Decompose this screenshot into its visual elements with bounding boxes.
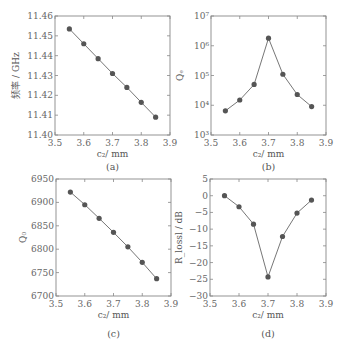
y-tick-label: 10⁷ xyxy=(194,11,209,21)
data-point xyxy=(222,193,227,198)
y-tick-label: −20 xyxy=(189,258,208,268)
data-point xyxy=(294,210,299,215)
data-point xyxy=(236,204,241,209)
data-point xyxy=(139,100,144,105)
data-point xyxy=(82,202,87,207)
y-tick-label: 10⁵ xyxy=(194,71,209,81)
data-point xyxy=(295,92,300,97)
x-tick-label: 3.7 xyxy=(106,299,121,309)
data-point xyxy=(252,82,257,87)
y-tick-label: 11.42 xyxy=(27,90,53,100)
panel-caption: (d) xyxy=(261,328,275,339)
data-point xyxy=(97,216,102,221)
panel-a: 3.53.63.73.83.911.4011.4111.4211.4311.44… xyxy=(10,11,177,172)
data-point xyxy=(154,276,159,281)
y-tick-label: 10³ xyxy=(194,130,209,140)
plot-frame xyxy=(56,179,171,296)
y-tick-label: 6900 xyxy=(31,197,54,207)
x-tick-label: 3.8 xyxy=(135,299,150,309)
y-tick-label: −25 xyxy=(189,274,208,284)
x-tick-label: 3.6 xyxy=(78,299,93,309)
x-tick-label: 3.9 xyxy=(319,138,334,148)
y-tick-label: 0 xyxy=(202,191,208,201)
x-tick-label: 3.7 xyxy=(261,138,276,148)
y-axis-label: Qₑ xyxy=(175,70,185,81)
x-tick-label: 3.9 xyxy=(164,299,179,309)
x-tick-label: 3.6 xyxy=(232,299,247,309)
y-tick-label: −30 xyxy=(189,291,208,301)
y-tick-label: 11.44 xyxy=(27,51,53,61)
x-tick-label: 3.9 xyxy=(319,299,334,309)
data-point xyxy=(237,97,242,102)
data-point xyxy=(110,71,115,76)
panel-b: 3.53.63.73.83.910³10⁴10⁵10⁶10⁷c₂/ mmQₑ(b… xyxy=(175,11,333,172)
panel-caption: (b) xyxy=(262,161,276,172)
data-point xyxy=(96,56,101,61)
data-point xyxy=(265,274,270,279)
x-tick-label: 3.8 xyxy=(290,299,305,309)
y-tick-label: 11.40 xyxy=(27,130,53,140)
data-point xyxy=(223,108,228,113)
figure-canvas: 3.53.63.73.83.911.4011.4111.4211.4311.44… xyxy=(0,0,346,355)
data-point xyxy=(266,36,271,41)
data-point xyxy=(81,41,86,46)
y-tick-label: 11.45 xyxy=(27,31,53,41)
x-axis-label: c₂/ mm xyxy=(98,310,130,320)
panel-caption: (c) xyxy=(107,328,120,339)
x-tick-label: 3.9 xyxy=(163,138,178,148)
y-tick-label: 11.46 xyxy=(27,11,53,21)
data-point xyxy=(140,260,145,265)
x-tick-label: 3.7 xyxy=(105,138,120,148)
x-axis-label: c₂/ mm xyxy=(97,149,129,159)
y-tick-label: 6750 xyxy=(31,268,54,278)
y-tick-label: 6700 xyxy=(31,291,54,301)
data-point xyxy=(68,190,73,195)
y-tick-label: 6950 xyxy=(31,174,54,184)
plot-frame xyxy=(211,16,326,135)
panel-c: 3.53.63.73.83.9670067506800685069006950c… xyxy=(18,174,178,339)
x-tick-label: 3.7 xyxy=(261,299,276,309)
y-tick-label: 6850 xyxy=(31,221,54,231)
y-axis-label: 频率 / GHz xyxy=(10,52,21,99)
data-point xyxy=(153,115,158,120)
y-tick-label: 11.41 xyxy=(27,110,53,120)
y-tick-label: −10 xyxy=(189,224,208,234)
data-point xyxy=(309,104,314,109)
y-axis-label: R_lossl / dB xyxy=(174,211,185,264)
data-point xyxy=(251,222,256,227)
y-tick-label: 10⁶ xyxy=(194,41,209,51)
data-point xyxy=(111,230,116,235)
y-tick-label: 10⁴ xyxy=(194,100,209,110)
x-tick-label: 3.8 xyxy=(290,138,305,148)
x-tick-label: 3.6 xyxy=(233,138,248,148)
data-point xyxy=(280,234,285,239)
y-axis-label: Q₀ xyxy=(18,232,28,243)
y-tick-label: −15 xyxy=(189,241,208,251)
y-tick-label: 6800 xyxy=(31,244,54,254)
data-point xyxy=(309,197,314,202)
y-tick-label: −5 xyxy=(195,207,209,217)
data-point xyxy=(125,244,130,249)
panel-d: 3.53.63.73.83.9−30−25−20−15−10−505c₂/ mm… xyxy=(174,174,333,339)
data-point xyxy=(280,72,285,77)
panel-caption: (a) xyxy=(106,161,119,172)
y-tick-label: 5 xyxy=(202,174,208,184)
data-point xyxy=(67,26,72,31)
x-axis-label: c₂/ mm xyxy=(252,310,284,320)
x-axis-label: c₂/ mm xyxy=(253,149,285,159)
y-tick-label: 11.43 xyxy=(27,71,53,81)
data-point xyxy=(124,85,129,90)
x-tick-label: 3.8 xyxy=(134,138,149,148)
x-tick-label: 3.6 xyxy=(77,138,92,148)
